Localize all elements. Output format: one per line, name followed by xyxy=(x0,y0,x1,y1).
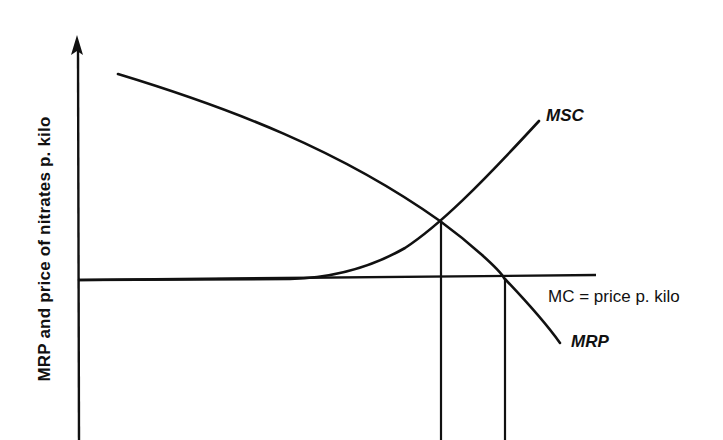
y-axis xyxy=(78,50,79,440)
msc-label: MSC xyxy=(546,106,584,126)
mrp-curve xyxy=(118,74,560,343)
y-axis-label: MRP and price of nitrates p. kilo xyxy=(35,116,55,381)
mrp-label: MRP xyxy=(571,332,609,352)
economics-diagram xyxy=(0,0,723,440)
mc-label: MC = price p. kilo xyxy=(548,287,680,307)
